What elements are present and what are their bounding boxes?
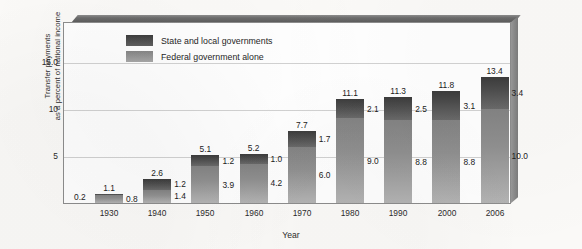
bar-total-label-1960: 5.2 bbox=[234, 143, 274, 153]
x-axis-title: Year bbox=[0, 230, 582, 240]
bar-federal-label-1980: 9.0 bbox=[367, 156, 379, 166]
y-tick-label-15: 15.0 bbox=[24, 57, 58, 67]
bar-segment-federal-1940 bbox=[143, 190, 171, 203]
x-tick-label-1990: 1990 bbox=[372, 208, 424, 218]
bar-state-and-local-label-1950: 1.2 bbox=[222, 156, 234, 166]
bar-segment-federal-1960 bbox=[240, 164, 268, 203]
y-axis-title-line2: as a percent of national income bbox=[53, 0, 63, 141]
bar-segment-federal-1950 bbox=[191, 166, 219, 203]
bar-total-label-2000: 11.8 bbox=[426, 80, 466, 90]
plot-area: State and local governments Federal gove… bbox=[63, 22, 511, 204]
x-tick-label-1930: 1930 bbox=[83, 208, 135, 218]
y-axis-title: Transfer payments as a percent of nation… bbox=[43, 0, 63, 141]
chart-3d-right-bevel bbox=[510, 16, 518, 204]
chart-screenshot: Transfer payments as a percent of nation… bbox=[0, 0, 582, 249]
legend-label-state-and-local: State and local governments bbox=[161, 36, 273, 46]
bar-segment-state-and-local-1940 bbox=[143, 179, 171, 190]
bar-segment-federal-2006 bbox=[481, 109, 509, 203]
bar-1990 bbox=[384, 97, 412, 203]
x-tick-label-2006: 2006 bbox=[469, 208, 521, 218]
bar-federal-label-2000: 8.8 bbox=[463, 157, 475, 167]
y-axis-title-line1: Transfer payments bbox=[43, 0, 53, 141]
bar-total-label-1970: 7.7 bbox=[282, 120, 322, 130]
bar-segment-state-and-local-1990 bbox=[384, 97, 412, 121]
bar-segment-federal-1990 bbox=[384, 120, 412, 203]
bar-state-and-local-label-1990: 2.5 bbox=[415, 104, 427, 114]
y-tick-label-10: 10 bbox=[24, 104, 58, 114]
bar-state-and-local-label-2000: 3.1 bbox=[463, 101, 475, 111]
legend-label-federal: Federal government alone bbox=[161, 52, 264, 62]
bar-total-label-1990: 11.3 bbox=[378, 86, 418, 96]
bar-segment-state-and-local-1970 bbox=[288, 131, 316, 147]
x-tick-label-1960: 1960 bbox=[228, 208, 280, 218]
x-tick-label-1950: 1950 bbox=[179, 208, 231, 218]
legend-swatch-federal bbox=[126, 51, 153, 62]
bar-state-and-local-label-1970: 1.7 bbox=[319, 134, 331, 144]
bar-federal-label-1960: 4.2 bbox=[271, 178, 283, 188]
bar-segment-state-and-local-2006 bbox=[481, 77, 509, 109]
bar-segment-state-and-local-2000 bbox=[432, 91, 460, 120]
legend-item-state-and-local: State and local governments bbox=[126, 35, 273, 46]
bar-segment-federal-1930 bbox=[95, 195, 123, 203]
x-tick-label-2000: 2000 bbox=[421, 208, 473, 218]
bar-total-label-1980: 11.1 bbox=[330, 88, 370, 98]
bar-1960 bbox=[240, 154, 268, 203]
bar-1950 bbox=[191, 155, 219, 203]
bar-federal-label-1930: 0.8 bbox=[126, 194, 138, 204]
bar-federal-label-1940: 1.4 bbox=[174, 191, 186, 201]
bar-state-and-local-label-2006: 3.4 bbox=[512, 88, 524, 98]
bar-federal-label-1990: 8.8 bbox=[415, 157, 427, 167]
legend-item-federal: Federal government alone bbox=[126, 51, 264, 62]
bar-2000 bbox=[432, 91, 460, 203]
gridline-15 bbox=[64, 63, 510, 64]
bar-2006 bbox=[481, 77, 509, 203]
bar-segment-state-and-local-1980 bbox=[336, 99, 364, 119]
bar-state-and-local-label-1960: 1.0 bbox=[271, 154, 283, 164]
legend-swatch-state-and-local bbox=[126, 35, 153, 46]
bar-state-and-local-label-1940: 1.2 bbox=[174, 179, 186, 189]
y-tick-label-5: 5 bbox=[24, 151, 58, 161]
x-tick-label-1980: 1980 bbox=[324, 208, 376, 218]
bar-total-label-2006: 13.4 bbox=[475, 66, 515, 76]
bar-state-and-local-label-1980: 2.1 bbox=[367, 104, 379, 114]
bar-total-label-1930: 1.1 bbox=[89, 183, 129, 193]
bar-federal-label-1950: 3.9 bbox=[222, 180, 234, 190]
bar-total-label-1940: 2.6 bbox=[137, 168, 177, 178]
bar-segment-federal-1970 bbox=[288, 147, 316, 203]
bar-1930 bbox=[95, 194, 123, 203]
bar-state-and-local-label-1930: 0.2 bbox=[74, 192, 86, 202]
bar-total-label-1950: 5.1 bbox=[185, 144, 225, 154]
bar-1980 bbox=[336, 99, 364, 203]
bar-federal-label-2006: 10.0 bbox=[512, 151, 528, 161]
bar-1970 bbox=[288, 131, 316, 203]
bar-federal-label-1970: 6.0 bbox=[319, 170, 331, 180]
bar-segment-state-and-local-1950 bbox=[191, 155, 219, 166]
bar-segment-federal-2000 bbox=[432, 120, 460, 203]
x-tick-label-1940: 1940 bbox=[131, 208, 183, 218]
bar-segment-state-and-local-1960 bbox=[240, 154, 268, 163]
bar-1940 bbox=[143, 179, 171, 203]
bar-segment-federal-1980 bbox=[336, 118, 364, 203]
x-tick-label-1970: 1970 bbox=[276, 208, 328, 218]
